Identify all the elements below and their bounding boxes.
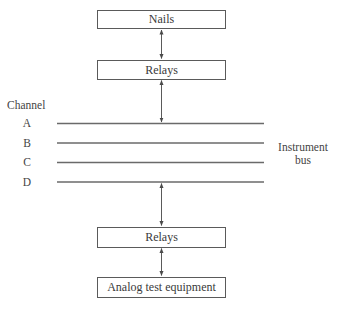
- analog-test-equipment-block: Analog test equipment: [97, 277, 226, 298]
- instrument-bus-label-line1: Instrument: [272, 141, 334, 154]
- nails-label: Nails: [149, 12, 174, 27]
- channel-heading: Channel: [7, 99, 45, 111]
- channel-label-b: B: [17, 137, 37, 149]
- channel-label-c: C: [17, 156, 37, 168]
- analog-test-equipment-label: Analog test equipment: [107, 280, 216, 295]
- relays-bottom-block: Relays: [97, 227, 226, 248]
- channel-label-d: D: [17, 176, 37, 188]
- nails-block: Nails: [97, 10, 226, 29]
- channel-label-a: A: [17, 117, 37, 129]
- relays-top-block: Relays: [97, 60, 226, 80]
- relays-top-label: Relays: [145, 63, 178, 78]
- diagram-canvas: Nails Relays Relays Analog test equipmen…: [0, 0, 338, 310]
- instrument-bus-label-line2: bus: [272, 154, 334, 167]
- relays-bottom-label: Relays: [145, 230, 178, 245]
- instrument-bus-label: Instrument bus: [272, 141, 334, 166]
